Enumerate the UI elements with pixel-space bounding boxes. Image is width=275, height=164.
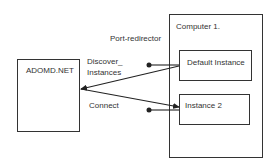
discover-arrow <box>81 66 179 89</box>
connect-arrow <box>81 89 179 107</box>
connector-lines <box>0 0 275 164</box>
